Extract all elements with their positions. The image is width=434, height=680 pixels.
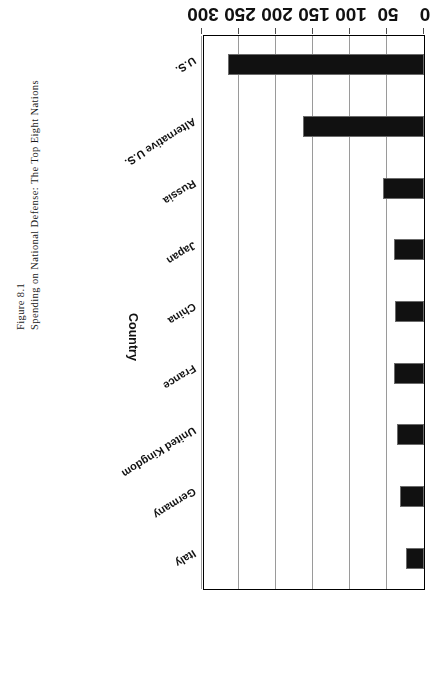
category-label: U.S.	[174, 55, 199, 77]
bar	[400, 486, 424, 507]
category-label: China	[166, 301, 198, 327]
bar-chart: 050100150200250300 Billions of 1999 Doll…	[40, 0, 425, 680]
axis-tick	[238, 28, 239, 34]
figure-number: Figure 8.1	[14, 0, 28, 330]
category-axis-title: Country	[126, 314, 140, 362]
axis-tick	[349, 28, 350, 34]
bar	[397, 424, 424, 445]
bar	[394, 239, 424, 260]
axis-tick	[312, 28, 313, 34]
plot-area	[203, 35, 425, 590]
bar	[303, 116, 424, 137]
bar	[406, 548, 424, 569]
category-label: France	[161, 363, 198, 392]
axis-tick	[423, 28, 424, 34]
axis-tick	[275, 28, 276, 34]
gridline	[238, 36, 239, 589]
category-label: Russia	[161, 178, 198, 207]
gridline	[201, 36, 202, 589]
axis-tick	[201, 28, 202, 34]
figure-caption: Figure 8.1 Spending on National Defense:…	[2, 0, 42, 330]
value-tick-label: 300	[178, 3, 228, 25]
bar	[228, 54, 424, 75]
category-label: United Kingdom	[120, 425, 198, 480]
axis-tick	[386, 28, 387, 34]
category-label: Germany	[151, 486, 198, 521]
gridline	[275, 36, 276, 589]
category-label: Japan	[165, 240, 198, 267]
category-label: Italy	[173, 548, 198, 570]
bar	[383, 178, 424, 199]
bar	[395, 301, 424, 322]
category-label: Alternative U.S.	[123, 116, 198, 169]
bar	[394, 363, 424, 384]
